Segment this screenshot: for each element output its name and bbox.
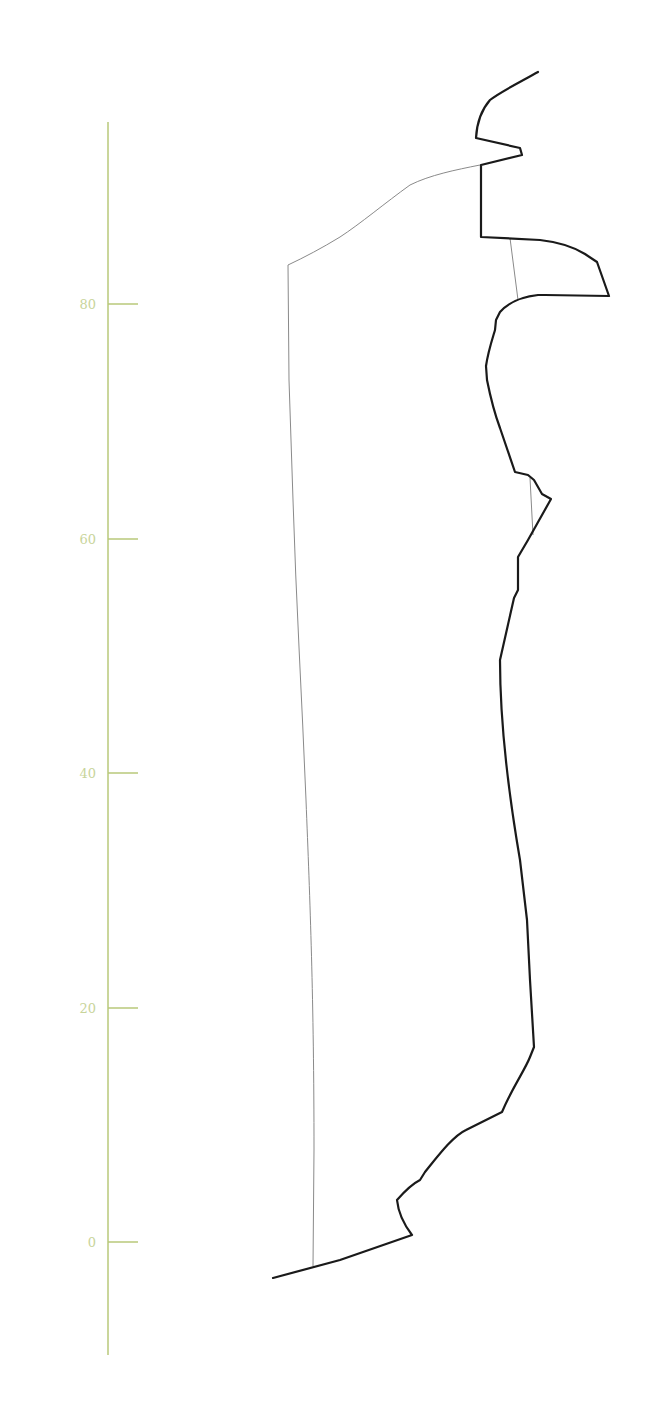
axis-tick-label: 80 <box>79 297 96 312</box>
axis-tick-label: 20 <box>79 1001 96 1016</box>
connector-lines <box>510 238 533 535</box>
connector-line <box>530 478 533 535</box>
inner-boundary-line <box>288 165 480 1266</box>
depth-axis: 806040200 <box>79 122 138 1355</box>
axis-tick-label: 0 <box>88 1235 96 1250</box>
connector-line <box>510 238 518 300</box>
profile-diagram: 806040200 <box>0 0 648 1426</box>
axis-tick-label: 40 <box>79 766 96 781</box>
axis-tick-label: 60 <box>79 532 96 547</box>
profile-outline <box>273 72 609 1278</box>
